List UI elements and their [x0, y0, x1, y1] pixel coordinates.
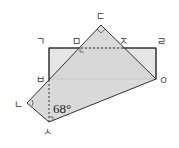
label-s: ㅅ [43, 126, 52, 137]
label-r: ㄹ [157, 36, 166, 47]
label-d: ㄷ [96, 11, 105, 22]
label-g: ㄱ [36, 36, 45, 47]
label-n: ㄴ [14, 99, 23, 110]
angle-label: 68° [53, 101, 71, 116]
geometry-figure: ㄱ ㅁ ㄷ ㅈ ㄹ ㅂ ㅇ ㄴ ㅅ 68° [0, 0, 179, 148]
label-o: ㅇ [159, 75, 168, 86]
label-b: ㅂ [36, 74, 45, 85]
label-j: ㅈ [119, 36, 128, 47]
label-m: ㅁ [72, 36, 81, 47]
quadrilateral [27, 25, 156, 122]
